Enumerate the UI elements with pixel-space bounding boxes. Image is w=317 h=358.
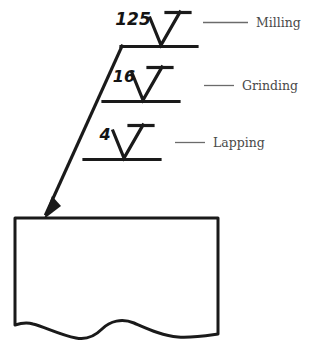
process-label-lapping: Lapping — [213, 135, 265, 150]
workpiece-section — [15, 218, 218, 339]
roughness-value-milling: 125 — [115, 9, 151, 29]
check-symbol-milling — [150, 12, 180, 45]
callout-lapping[interactable]: 4 Lapping — [84, 125, 265, 160]
callout-milling[interactable]: 125 Milling — [115, 9, 301, 47]
roughness-value-grinding: 16 — [113, 67, 135, 86]
process-label-milling: Milling — [256, 15, 301, 30]
callout-grinding[interactable]: 16 Grinding — [103, 67, 298, 102]
surface-finish-drawing: 125 Milling 16 Grinding 4 Lapping — [0, 0, 317, 358]
leader-line — [46, 46, 122, 214]
roughness-value-lapping: 4 — [98, 125, 110, 144]
leader-arrowhead — [44, 196, 61, 219]
check-symbol-grinding — [132, 67, 162, 100]
check-symbol-lapping — [113, 125, 143, 158]
process-label-grinding: Grinding — [242, 78, 298, 93]
